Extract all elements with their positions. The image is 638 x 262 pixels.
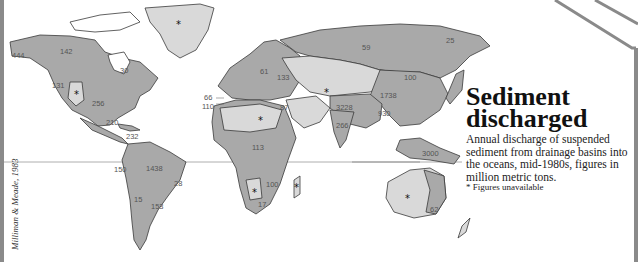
label-east-australia: 62 — [430, 205, 438, 214]
map-title: Sediment discharged — [466, 86, 587, 130]
star-icon: * — [405, 193, 410, 204]
label-columbia: 131 — [52, 81, 65, 90]
label-amur: 100 — [404, 73, 417, 82]
greenland — [145, 4, 214, 58]
label-west-africa: 113 — [252, 143, 264, 152]
label-hudson: 30 — [120, 66, 128, 75]
label-alaska: 444 — [12, 51, 25, 60]
frame-lines — [555, 0, 638, 48]
label-east-brazil: 28 — [174, 179, 182, 188]
north-america — [10, 35, 158, 126]
legend-note: * Figures unavailable — [466, 182, 543, 192]
japan — [446, 70, 464, 104]
label-mississippi: 256 — [92, 99, 105, 108]
middle-east — [286, 96, 330, 128]
star-icon: * — [324, 87, 329, 98]
label-pacific-sa: 150 — [114, 165, 127, 174]
label-east-siberia: 25 — [446, 36, 454, 45]
star-icon: * — [258, 115, 263, 126]
title-line-2: discharged — [466, 108, 587, 130]
label-southern-africa: 17 — [258, 200, 266, 209]
label-oceania: 3000 — [422, 149, 439, 158]
label-orinoco: 232 — [126, 132, 139, 141]
label-ganges: 3228 — [336, 103, 353, 112]
star-icon: * — [176, 19, 181, 30]
label-central-africa: 100 — [266, 180, 279, 189]
sahara — [220, 104, 282, 132]
europe — [218, 40, 300, 100]
south-america — [122, 142, 186, 250]
star-icon: * — [74, 89, 79, 100]
label-andes: 15 — [134, 195, 142, 204]
star-icon: * — [294, 182, 299, 193]
label-south-china: 930 — [378, 109, 391, 118]
label-mediterranean: 66 — [204, 93, 212, 102]
label-parana: 153 — [151, 202, 164, 211]
source-credit: Milliman & Meade, 1983 — [10, 159, 20, 251]
new-zealand — [458, 218, 470, 238]
label-north-europe: 61 — [260, 67, 268, 76]
label-black-sea: 133 — [277, 73, 290, 82]
label-amazon: 1438 — [146, 164, 163, 173]
map-description: Annual discharge of suspended sediment f… — [466, 133, 636, 183]
label-central-america: 210 — [106, 118, 119, 127]
label-middle-east: 87 — [280, 103, 288, 112]
label-india: 266 — [336, 121, 349, 130]
label-mackenzie: 142 — [60, 47, 73, 56]
arctic-islands — [70, 12, 140, 32]
label-siberia: 59 — [362, 43, 370, 52]
label-yellow-river: 1738 — [380, 91, 397, 100]
star-icon: * — [252, 187, 257, 198]
caribbean — [118, 124, 140, 131]
label-iberia: 110 — [202, 102, 214, 111]
